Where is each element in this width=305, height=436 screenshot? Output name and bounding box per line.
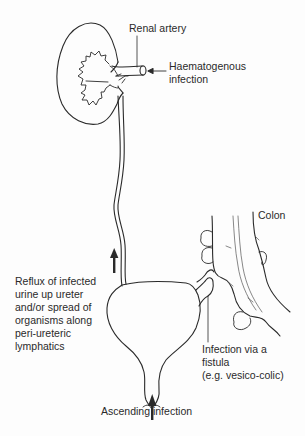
kidney-outline (57, 23, 123, 124)
haematogenous-arrow-head (148, 69, 153, 74)
colon-diverticulum (201, 230, 212, 246)
renal-artery-lumen (140, 66, 146, 75)
fistula-tract (196, 270, 214, 306)
fistula-label: Infection via a fistula (e.g. vesico-col… (202, 343, 284, 382)
colon-diverticulum (233, 312, 250, 330)
renal-calyces (78, 51, 110, 105)
ascending-infection-label: Ascending infection (101, 405, 192, 418)
colon-label: Colon (258, 209, 285, 222)
renal-pelvis (110, 66, 118, 88)
reflux-label: Reflux of infected urine up ureter and/o… (15, 275, 96, 353)
renal-artery-label: Renal artery (129, 22, 186, 35)
colon-left-wall (212, 216, 280, 336)
colon-diverticulum (202, 247, 213, 263)
infection-routes-diagram: Renal artery Haematogenous infection Col… (0, 0, 305, 436)
haematogenous-infection-label: Haematogenous infection (169, 60, 246, 86)
bladder-outline (107, 282, 200, 406)
colon-right-wall (253, 212, 290, 312)
colon-inner-folds (226, 216, 262, 312)
reflux-arrow-head (110, 248, 118, 258)
renal-artery-vessel (112, 66, 143, 76)
reflux-arrow-shaft (113, 257, 115, 273)
